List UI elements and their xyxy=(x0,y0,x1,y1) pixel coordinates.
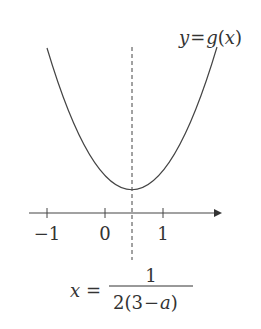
curve-label-eq: = xyxy=(190,27,205,48)
formula-numerator: 1 xyxy=(145,265,156,286)
denominator-suffix: ) xyxy=(171,292,178,313)
denominator-var-a: a xyxy=(160,292,171,313)
curve-label-y: y xyxy=(178,27,190,48)
formula-denominator: 2(3−a) xyxy=(113,292,178,313)
curve-label: y=g(x) xyxy=(178,27,242,48)
curve-label-g: g xyxy=(206,27,218,48)
tick-label-0: 0 xyxy=(99,223,110,244)
formula-eq: = xyxy=(86,280,101,301)
tick-label-1: 1 xyxy=(157,223,168,244)
curve-label-open: ( xyxy=(218,27,225,48)
graph-figure: −1 0 1 y=g(x) x = 1 2(3−a) xyxy=(0,0,261,329)
curve-label-close: ) xyxy=(235,27,242,48)
denominator-minus: − xyxy=(144,292,159,313)
tick-label-minus-1: −1 xyxy=(34,223,61,244)
x-axis-arrow-icon xyxy=(214,209,222,217)
denominator-prefix: 2(3 xyxy=(113,292,143,313)
formula-lhs-x: x xyxy=(70,280,80,301)
curve-label-x: x xyxy=(225,27,235,48)
